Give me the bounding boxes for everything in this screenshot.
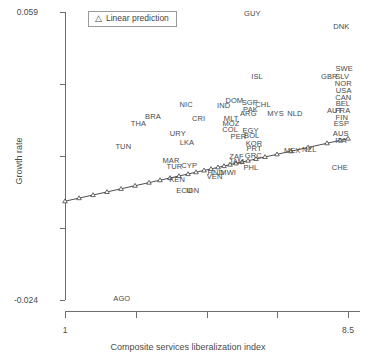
data-point-label: LKA (180, 139, 194, 147)
x-axis-title: Composite services liberalization index (0, 342, 376, 352)
data-point-label: ITA (335, 137, 346, 145)
y-axis-title: Growth rate (14, 116, 24, 206)
data-point-label: NIC (180, 101, 193, 109)
plot-canvas (0, 0, 376, 359)
x-axis-tick-label-min: 1 (63, 325, 68, 335)
y-axis-tick-label-max: 0.059 (17, 7, 38, 17)
data-point-label: MWI (220, 169, 236, 177)
data-point-label: GRC (245, 153, 262, 161)
data-point-label: IND (217, 102, 230, 110)
data-point-label: MEX (284, 147, 301, 155)
data-point-label: BRA (145, 113, 161, 121)
legend-box: △ Linear prediction (88, 11, 177, 27)
legend-label: Linear prediction (106, 14, 169, 23)
data-point-label: TUN (115, 143, 131, 151)
data-point-label: ARG (240, 110, 257, 118)
data-point-label: VEN (207, 173, 223, 181)
triangle-marker-icon: △ (95, 14, 102, 23)
y-axis-tick-label-min: -0.024 (14, 295, 38, 305)
data-point-label: JAM (229, 158, 244, 166)
data-point-label: NLD (287, 110, 302, 118)
data-point-label: ISL (251, 73, 263, 81)
data-point-label: KEN (169, 177, 185, 185)
data-point-label: PHL (243, 164, 258, 172)
x-axis-tick-label-max: 8.5 (342, 325, 354, 335)
data-point-label: CYP (181, 163, 197, 171)
data-point-label: MYS (267, 110, 284, 118)
data-point-label: TUR (167, 163, 183, 171)
data-point-label: IDN (186, 188, 199, 196)
data-point-label: CHE (332, 164, 348, 172)
data-point-label: GUY (244, 10, 261, 18)
data-point-label: THA (131, 121, 146, 129)
data-point-label: URY (170, 130, 186, 138)
data-point-label: CRI (192, 115, 205, 123)
data-point-label: ESP (334, 120, 349, 128)
data-point-label: DNK (333, 23, 349, 31)
data-point-label: NZL (302, 146, 316, 154)
scatter-plot-figure: 0.059 -0.024 1 8.5 Growth rate Composite… (0, 0, 376, 359)
data-point-label: AGO (113, 295, 130, 303)
